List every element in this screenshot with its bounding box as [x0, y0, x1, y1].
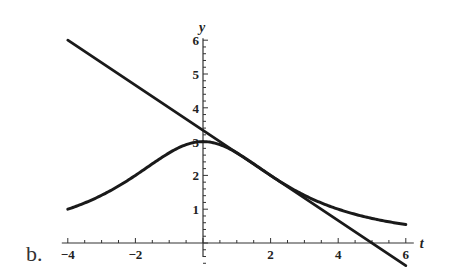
x-tick-label: 6: [403, 247, 410, 262]
y-tick-label: 4: [193, 101, 200, 116]
tick-labels: −4−2246123456: [61, 33, 410, 262]
y-tick-label: 1: [193, 202, 200, 217]
x-tick-label: −4: [61, 247, 75, 262]
x-tick-label: −2: [128, 247, 142, 262]
data-series: [68, 40, 406, 265]
x-tick-label: 4: [335, 247, 342, 262]
x-axis-title: t: [420, 236, 425, 251]
y-tick-label: 6: [193, 33, 200, 48]
panel-label: b.: [26, 241, 43, 267]
chart: −4−2246123456 t y: [0, 0, 452, 280]
x-tick-label: 2: [267, 247, 274, 262]
y-tick-label: 5: [193, 67, 200, 82]
y-axis-title: y: [197, 20, 206, 35]
tangent-line: [68, 40, 406, 265]
y-tick-label: 2: [193, 168, 200, 183]
